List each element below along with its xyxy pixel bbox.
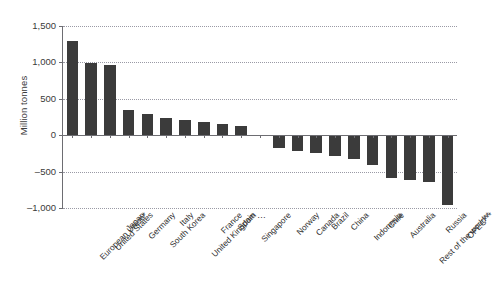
x-tick-mark [391,135,392,138]
x-tick-mark [279,135,280,138]
bar [123,110,135,135]
x-tick-mark [91,135,92,138]
x-tick-mark [166,135,167,138]
bar [404,135,416,179]
x-tick-mark [373,135,374,138]
x-tick-mark [335,135,336,138]
x-tick-mark [72,135,73,138]
bar [348,135,360,159]
x-tick-mark [429,135,430,138]
y-tick-label: 500 [12,94,56,104]
x-tick-mark [110,135,111,138]
x-tick-mark [298,135,299,138]
y-axis-title: Million tonnes [18,51,29,161]
x-tick-mark [410,135,411,138]
y-tick-label: –1,000 [12,203,56,213]
bar [329,135,341,156]
x-tick-mark [316,135,317,138]
y-tick-label: 0 [12,130,56,140]
plot-area [63,26,457,208]
bar [423,135,435,182]
bar [235,126,247,135]
x-axis-label: Australia [408,210,438,240]
x-axis-labels: European Union*United StatesJapanGermany… [63,210,464,295]
y-tick-label: –500 [12,167,56,177]
bar [367,135,379,165]
bar [179,120,191,135]
bar [386,135,398,178]
x-tick-mark [147,135,148,138]
x-axis-label: China [348,210,370,232]
bar [442,135,454,205]
x-axis-label: … [257,210,266,220]
y-tick-label: 1,500 [12,21,56,31]
bar [142,114,154,135]
bar [160,118,172,135]
x-tick-mark [241,135,242,138]
bar [67,41,79,136]
x-tick-mark [448,135,449,138]
x-tick-mark [204,135,205,138]
bar [85,63,97,135]
x-tick-mark [222,135,223,138]
x-tick-mark [185,135,186,138]
y-tick-label: 1,000 [12,57,56,67]
bar-series [63,26,457,208]
x-tick-mark [129,135,130,138]
x-tick-mark [260,135,261,138]
bar [217,124,229,136]
bar [198,122,210,135]
bar [104,65,116,135]
gridline [63,208,457,209]
x-tick-mark [354,135,355,138]
